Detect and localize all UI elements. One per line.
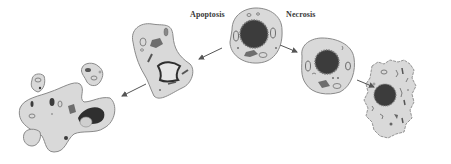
- apoptotic-body: [81, 63, 102, 85]
- condensed-nucleus: [158, 62, 180, 81]
- nucleus: [374, 84, 396, 106]
- cell-death-diagram: Apoptosis Necrosis: [0, 0, 451, 164]
- diagram-canvas: [0, 0, 451, 164]
- nucleus: [315, 50, 339, 74]
- arrow-normal-to-apoptosis: [199, 48, 222, 59]
- nucleus: [240, 20, 268, 48]
- necrosis-swollen-cell: [302, 38, 355, 94]
- apoptosis-label: Apoptosis: [190, 10, 225, 19]
- arrow-normal-to-necrosis: [280, 45, 297, 52]
- arrow-apoptosis-to-bodies: [122, 84, 146, 96]
- necrosis-label: Necrosis: [286, 10, 316, 19]
- normal-cell: [230, 8, 282, 63]
- apoptosis-shrunken-cell: [132, 24, 192, 98]
- apoptotic-bodies: [19, 63, 115, 152]
- apoptotic-body: [23, 129, 40, 146]
- necrosis-ruptured-cell: [364, 60, 416, 138]
- apoptotic-body: [31, 74, 45, 92]
